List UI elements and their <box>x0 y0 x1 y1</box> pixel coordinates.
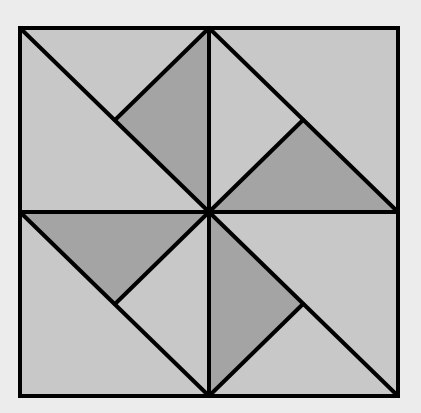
pinwheel-diagram <box>0 0 421 413</box>
